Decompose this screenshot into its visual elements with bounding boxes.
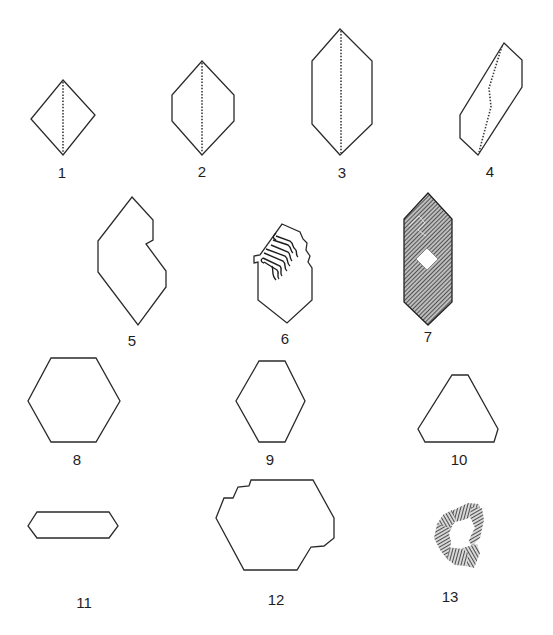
notched-hexagon-outline — [98, 197, 166, 325]
hexagon-outline — [312, 29, 372, 155]
shape-label-7: 7 — [424, 328, 432, 345]
shape-label-5: 5 — [128, 332, 136, 349]
shape-7: 7 — [404, 193, 452, 345]
truncated-triangle-outline — [418, 375, 498, 442]
shape-label-8: 8 — [73, 451, 81, 468]
shape-12: 12 — [216, 480, 334, 608]
growth-inclusion — [261, 233, 298, 280]
shape-8: 8 — [28, 358, 120, 468]
shape-10: 10 — [418, 375, 498, 468]
shape-label-3: 3 — [338, 164, 346, 181]
crystal-habit-figure: 1 2 3 4 5 — [0, 0, 553, 635]
shape-label-1: 1 — [58, 164, 66, 181]
shape-label-10: 10 — [451, 451, 468, 468]
hexagon-outline — [172, 61, 234, 155]
shape-label-6: 6 — [281, 330, 289, 347]
shape-label-9: 9 — [266, 451, 274, 468]
shape-4: 4 — [460, 43, 522, 180]
shape-2: 2 — [172, 61, 234, 180]
shape-9: 9 — [236, 361, 305, 468]
shape-label-4: 4 — [486, 163, 494, 180]
flat-hexagon-outline — [28, 512, 118, 538]
regular-hexagon-outline — [28, 358, 120, 442]
shape-label-2: 2 — [198, 163, 206, 180]
shape-5: 5 — [98, 197, 166, 349]
shape-3: 3 — [312, 29, 372, 181]
shape-13: 13 — [434, 503, 484, 605]
shape-1: 1 — [31, 80, 95, 181]
shape-11: 11 — [28, 512, 118, 611]
shape-6: 6 — [254, 224, 312, 347]
slanted-hexagon-outline — [460, 43, 522, 155]
stepped-hexagon-outline — [216, 480, 334, 570]
shape-label-11: 11 — [76, 594, 92, 611]
shape-label-12: 12 — [268, 591, 285, 608]
elongated-hexagon-outline — [236, 361, 305, 442]
shape-label-13: 13 — [442, 588, 459, 605]
